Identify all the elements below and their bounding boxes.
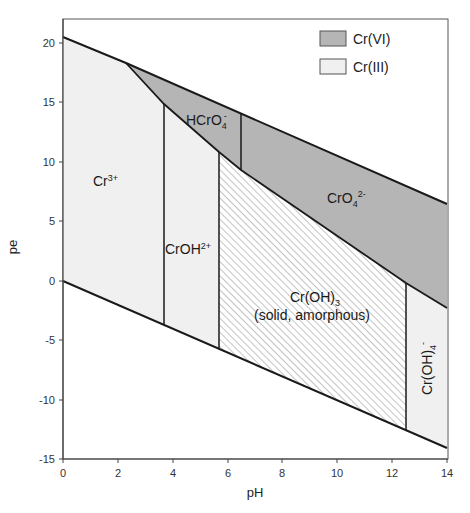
legend-label-cr3: Cr(III): [353, 59, 389, 75]
x-tick-labels: 0 2 4 6 8 10 12 14: [60, 467, 453, 479]
svg-text:-10: -10: [39, 394, 55, 406]
svg-text:2: 2: [115, 467, 121, 479]
svg-text:12: 12: [386, 467, 398, 479]
legend-label-cr6: Cr(VI): [353, 31, 390, 47]
label-croh3-note: (solid, amorphous): [254, 307, 370, 323]
svg-text:-5: -5: [45, 334, 55, 346]
svg-text:-15: -15: [39, 453, 55, 465]
svg-text:4: 4: [170, 467, 176, 479]
pe-ph-diagram: 20 15 10 5 0 -5 -10 -15 0 2 4 6 8 10 12 …: [0, 0, 470, 513]
svg-text:15: 15: [43, 96, 55, 108]
svg-text:0: 0: [49, 275, 55, 287]
y-axis-title: pe: [5, 240, 20, 254]
y-tick-labels: 20 15 10 5 0 -5 -10 -15: [39, 37, 55, 465]
svg-text:6: 6: [225, 467, 231, 479]
svg-text:14: 14: [441, 467, 453, 479]
svg-text:0: 0: [60, 467, 66, 479]
x-axis-title: pH: [247, 485, 264, 500]
legend-swatch-cr3: [320, 59, 346, 74]
svg-text:10: 10: [43, 156, 55, 168]
legend-swatch-cr6: [320, 31, 346, 46]
svg-text:20: 20: [43, 37, 55, 49]
svg-text:8: 8: [279, 467, 285, 479]
svg-text:10: 10: [331, 467, 343, 479]
svg-text:5: 5: [49, 215, 55, 227]
